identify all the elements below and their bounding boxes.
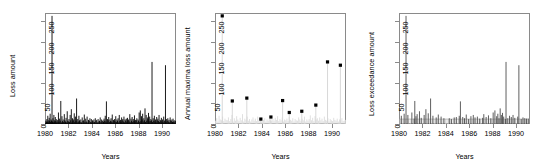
x-tick-label: 1980: [207, 129, 223, 138]
y-tick-label: 0: [393, 125, 402, 129]
x-tick-label: 1982: [60, 129, 76, 138]
x-tick-label: 1984: [254, 129, 270, 138]
y-tick-label: 150: [217, 63, 226, 75]
x-tick-mark: [469, 124, 470, 128]
x-tick-mark: [262, 124, 263, 128]
panel-1-y-axis-label: Loss amount: [8, 55, 17, 97]
y-tick-label: 250: [47, 22, 56, 34]
panel-3-x-axis-label: Years: [399, 152, 530, 161]
x-tick-label: 1980: [391, 129, 407, 138]
x-tick-mark: [45, 124, 46, 128]
y-tick-label: 250: [401, 22, 410, 34]
y-tick-mark: [395, 62, 399, 63]
y-tick-label: 150: [401, 63, 410, 75]
x-tick-label: 1986: [461, 129, 477, 138]
panel-2-series-svg: [215, 13, 346, 124]
y-tick-label: 50: [397, 104, 406, 112]
x-tick-mark: [309, 124, 310, 128]
x-tick-mark: [399, 124, 400, 128]
x-tick-label: 1990: [154, 129, 170, 138]
y-tick-mark: [395, 83, 399, 84]
y-tick-label: 0: [209, 125, 218, 129]
y-tick-label: 200: [47, 42, 56, 54]
y-tick-mark: [395, 42, 399, 43]
x-tick-mark: [332, 124, 333, 128]
x-tick-label: 1980: [37, 129, 53, 138]
x-tick-label: 1986: [107, 129, 123, 138]
x-tick-mark: [446, 124, 447, 128]
panel-1-x-axis-label: Years: [45, 152, 176, 161]
y-tick-label: 200: [217, 42, 226, 54]
x-tick-label: 1986: [277, 129, 293, 138]
x-tick-mark: [215, 124, 216, 128]
panel-3-series-svg: [399, 13, 530, 124]
panel-2-x-axis-label: Years: [215, 152, 346, 161]
x-tick-label: 1984: [438, 129, 454, 138]
y-tick-mark: [41, 83, 45, 84]
y-tick-label: 100: [217, 83, 226, 95]
y-tick-mark: [211, 62, 215, 63]
panel-loss-exceedance: Loss exceedance amount Years 05010015020…: [368, 0, 552, 166]
panel-annual-maxima: Annual maxima loss amount Years 05010015…: [184, 0, 368, 166]
y-tick-mark: [395, 21, 399, 22]
figure-canvas: Loss amount Years 0501001502002501980198…: [0, 0, 552, 166]
x-tick-mark: [516, 124, 517, 128]
x-tick-label: 1988: [301, 129, 317, 138]
y-tick-mark: [211, 83, 215, 84]
x-tick-mark: [68, 124, 69, 128]
y-tick-label: 100: [47, 83, 56, 95]
x-tick-mark: [238, 124, 239, 128]
y-tick-label: 250: [217, 22, 226, 34]
y-tick-mark: [41, 21, 45, 22]
panel-1-series-svg: [45, 13, 176, 124]
y-tick-mark: [211, 21, 215, 22]
x-tick-mark: [285, 124, 286, 128]
y-tick-mark: [211, 42, 215, 43]
x-tick-label: 1982: [414, 129, 430, 138]
x-tick-label: 1990: [324, 129, 340, 138]
y-tick-label: 50: [213, 104, 222, 112]
x-tick-mark: [115, 124, 116, 128]
y-tick-mark: [41, 42, 45, 43]
x-tick-label: 1988: [485, 129, 501, 138]
y-tick-label: 50: [43, 104, 52, 112]
x-tick-label: 1990: [508, 129, 524, 138]
panel-2-y-axis-label: Annual maxima loss amount: [183, 27, 192, 120]
y-tick-mark: [41, 62, 45, 63]
panel-loss-amount: Loss amount Years 0501001502002501980198…: [0, 0, 184, 166]
y-tick-label: 200: [401, 42, 410, 54]
y-tick-label: 150: [47, 63, 56, 75]
x-tick-mark: [139, 124, 140, 128]
y-tick-label: 100: [401, 83, 410, 95]
x-tick-label: 1984: [84, 129, 100, 138]
panel-3-y-axis-label: Loss exceedance amount: [367, 32, 376, 116]
x-tick-mark: [92, 124, 93, 128]
x-tick-mark: [493, 124, 494, 128]
x-tick-mark: [162, 124, 163, 128]
y-tick-label: 0: [39, 125, 48, 129]
x-tick-mark: [422, 124, 423, 128]
x-tick-label: 1982: [230, 129, 246, 138]
x-tick-label: 1988: [131, 129, 147, 138]
